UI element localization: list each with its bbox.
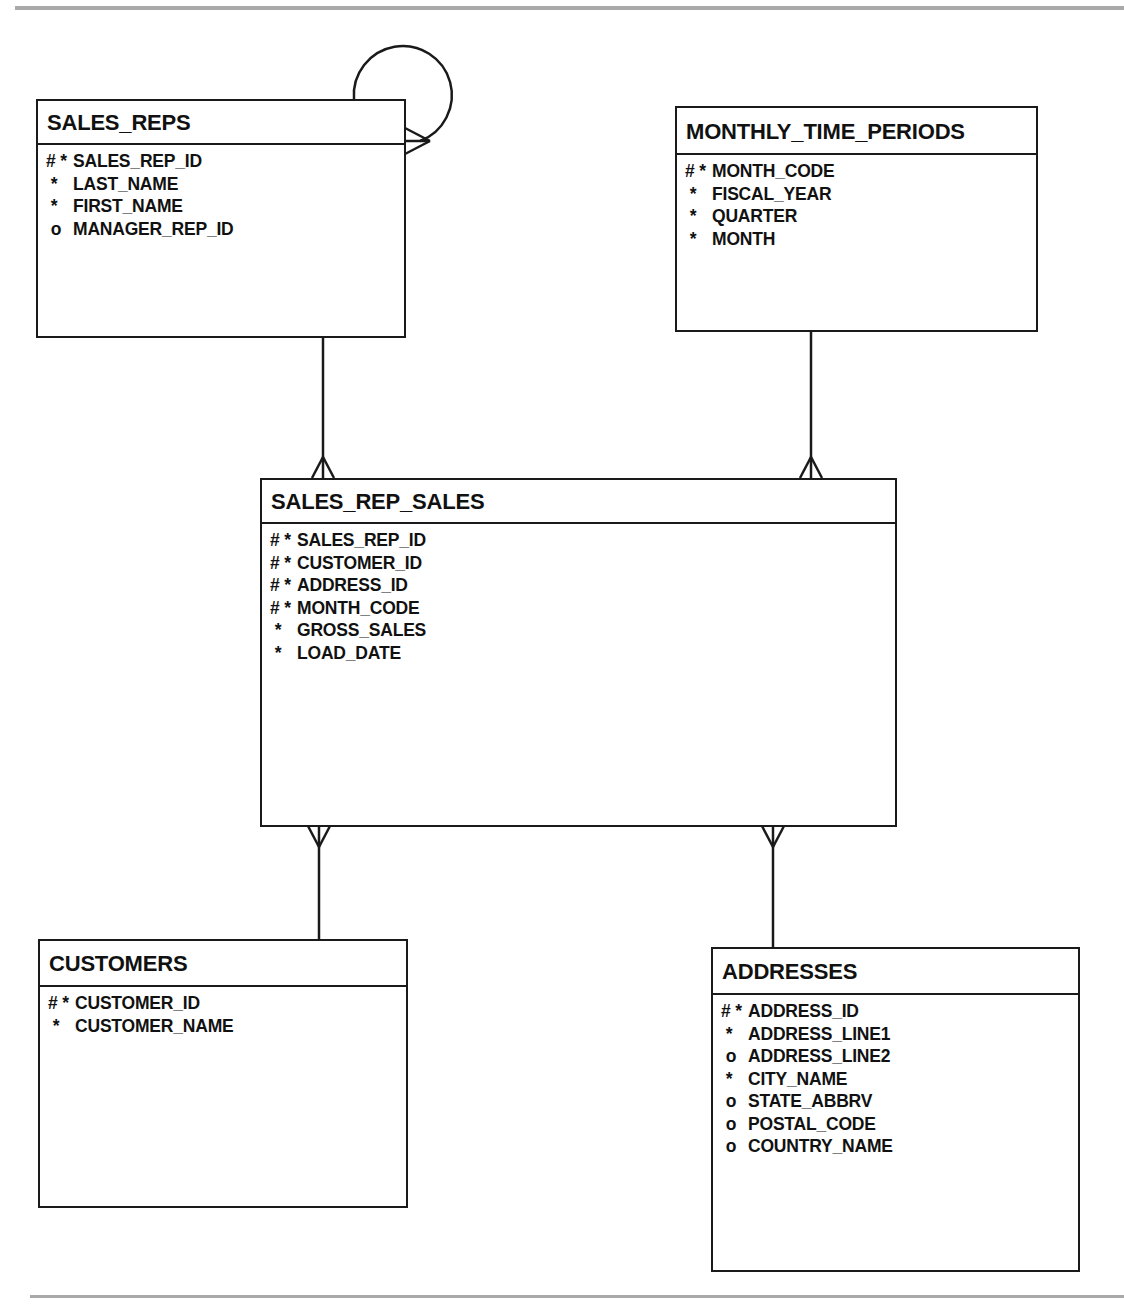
attribute-name: CITY_NAME (748, 1069, 847, 1089)
attribute-list: # *MONTH_CODE *FISCAL_YEAR *QUARTER *MON… (677, 155, 1036, 250)
attribute-marker: * (685, 228, 712, 251)
attribute: # *CUSTOMER_ID (270, 552, 895, 575)
attribute: *FISCAL_YEAR (685, 183, 1036, 206)
attribute-marker: # * (685, 160, 712, 183)
entity-sales-rep-sales[interactable]: SALES_REP_SALES # *SALES_REP_ID # *CUSTO… (260, 478, 897, 827)
attribute-list: # *CUSTOMER_ID *CUSTOMER_NAME (40, 987, 406, 1037)
attribute-marker: * (48, 1015, 75, 1038)
rel-sales-reps-to-sales-rep-sales (312, 337, 334, 478)
attribute-name: COUNTRY_NAME (748, 1136, 893, 1156)
attribute: oCOUNTRY_NAME (721, 1135, 1078, 1158)
attribute: oPOSTAL_CODE (721, 1113, 1078, 1136)
attribute-name: CUSTOMER_ID (297, 553, 422, 573)
attribute-name: MONTH (712, 229, 775, 249)
attribute-name: POSTAL_CODE (748, 1114, 876, 1134)
attribute: oSTATE_ABBRV (721, 1090, 1078, 1113)
attribute-marker: # * (270, 597, 297, 620)
attribute-name: GROSS_SALES (297, 620, 426, 640)
attribute: # *CUSTOMER_ID (48, 992, 406, 1015)
attribute-name: LAST_NAME (73, 174, 178, 194)
attribute-name: FISCAL_YEAR (712, 184, 831, 204)
attribute-marker: # * (48, 992, 75, 1015)
attribute-marker: o (46, 218, 73, 241)
attribute-name: CUSTOMER_NAME (75, 1016, 233, 1036)
attribute-name: ADDRESS_ID (297, 575, 408, 595)
attribute: oADDRESS_LINE2 (721, 1045, 1078, 1068)
attribute-name: MONTH_CODE (712, 161, 834, 181)
attribute-name: LOAD_DATE (297, 643, 401, 663)
attribute-marker: # * (270, 529, 297, 552)
attribute: *QUARTER (685, 205, 1036, 228)
attribute-marker: * (46, 195, 73, 218)
attribute-name: ADDRESS_LINE1 (748, 1024, 890, 1044)
entity-title: ADDRESSES (713, 949, 1078, 995)
entity-sales-reps[interactable]: SALES_REPS # *SALES_REP_ID *LAST_NAME *F… (36, 99, 406, 338)
attribute-marker: o (721, 1135, 748, 1158)
attribute: # *ADDRESS_ID (270, 574, 895, 597)
entity-customers[interactable]: CUSTOMERS # *CUSTOMER_ID *CUSTOMER_NAME (38, 939, 408, 1208)
attribute: # *SALES_REP_ID (270, 529, 895, 552)
attribute: # *SALES_REP_ID (46, 150, 404, 173)
entity-title: SALES_REPS (38, 101, 404, 145)
attribute-name: MONTH_CODE (297, 598, 419, 618)
attribute: *CITY_NAME (721, 1068, 1078, 1091)
attribute-list: # *ADDRESS_ID *ADDRESS_LINE1 oADDRESS_LI… (713, 995, 1078, 1158)
attribute: *GROSS_SALES (270, 619, 895, 642)
attribute-marker: * (270, 619, 297, 642)
attribute-name: QUARTER (712, 206, 797, 226)
attribute-marker: o (721, 1045, 748, 1068)
attribute-marker: * (721, 1023, 748, 1046)
attribute: # *MONTH_CODE (685, 160, 1036, 183)
attribute: oMANAGER_REP_ID (46, 218, 404, 241)
attribute-marker: # * (270, 552, 297, 575)
attribute-marker: o (721, 1113, 748, 1136)
attribute-marker: o (721, 1090, 748, 1113)
attribute-marker: * (270, 642, 297, 665)
attribute: *FIRST_NAME (46, 195, 404, 218)
attribute-marker: * (685, 205, 712, 228)
attribute: *CUSTOMER_NAME (48, 1015, 406, 1038)
entity-title: SALES_REP_SALES (262, 480, 895, 524)
rel-addresses-to-sales-rep-sales (762, 826, 784, 947)
attribute: # *ADDRESS_ID (721, 1000, 1078, 1023)
attribute-marker: * (685, 183, 712, 206)
attribute: *ADDRESS_LINE1 (721, 1023, 1078, 1046)
rel-monthly-time-periods-to-sales-rep-sales (800, 331, 822, 478)
attribute-name: FIRST_NAME (73, 196, 183, 216)
attribute-marker: # * (721, 1000, 748, 1023)
attribute: *LOAD_DATE (270, 642, 895, 665)
rel-customers-to-sales-rep-sales (308, 826, 330, 939)
attribute-name: ADDRESS_LINE2 (748, 1046, 890, 1066)
attribute-marker: # * (46, 150, 73, 173)
entity-addresses[interactable]: ADDRESSES # *ADDRESS_ID *ADDRESS_LINE1 o… (711, 947, 1080, 1272)
entity-monthly-time-periods[interactable]: MONTHLY_TIME_PERIODS # *MONTH_CODE *FISC… (675, 106, 1038, 332)
attribute-marker: * (46, 173, 73, 196)
entity-title: MONTHLY_TIME_PERIODS (677, 108, 1036, 155)
attribute: # *MONTH_CODE (270, 597, 895, 620)
attribute-list: # *SALES_REP_ID # *CUSTOMER_ID # *ADDRES… (262, 524, 895, 664)
attribute-name: STATE_ABBRV (748, 1091, 872, 1111)
attribute-name: MANAGER_REP_ID (73, 219, 234, 239)
attribute: *LAST_NAME (46, 173, 404, 196)
attribute-name: CUSTOMER_ID (75, 993, 200, 1013)
entity-title: CUSTOMERS (40, 941, 406, 987)
attribute-marker: * (721, 1068, 748, 1091)
attribute-name: ADDRESS_ID (748, 1001, 859, 1021)
attribute-name: SALES_REP_ID (73, 151, 202, 171)
attribute-marker: # * (270, 574, 297, 597)
attribute: *MONTH (685, 228, 1036, 251)
attribute-name: SALES_REP_ID (297, 530, 426, 550)
attribute-list: # *SALES_REP_ID *LAST_NAME *FIRST_NAME o… (38, 145, 404, 240)
